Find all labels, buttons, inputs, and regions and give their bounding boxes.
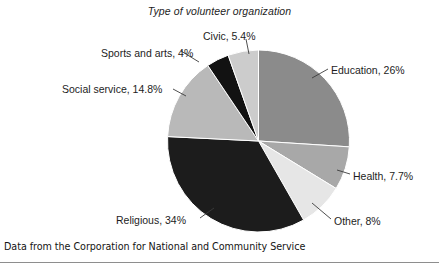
- pie-slice-group: [168, 50, 350, 232]
- slice-label-education: Education, 26%: [331, 64, 405, 76]
- slice-label-other: Other, 8%: [334, 215, 381, 227]
- slice-label-religious: Religious, 34%: [116, 214, 186, 226]
- source-note: Data from the Corporation for National a…: [4, 241, 305, 252]
- pie-chart-figure: Type of volunteer organization Civic, 5.…: [0, 0, 439, 267]
- bottom-divider: [0, 262, 439, 263]
- slice-label-civic: Civic, 5.4%: [203, 30, 256, 42]
- slice-label-health: Health, 7.7%: [353, 170, 413, 182]
- slice-label-social-service: Social service, 14.8%: [62, 83, 162, 95]
- slice-label-sports-and-arts: Sports and arts, 4%: [101, 47, 193, 59]
